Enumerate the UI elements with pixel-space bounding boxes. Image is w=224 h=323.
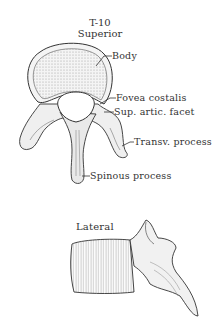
label-fovea-costalis: Fovea costalis [116, 93, 187, 103]
view-title-superior: T-10 Superior [70, 18, 130, 39]
label-spinous-process: Spinous process [90, 171, 172, 181]
label-sup-artic-facet: Sup. artic. facet [114, 107, 195, 117]
view-orientation: Superior [70, 29, 130, 40]
label-body: Body [112, 51, 137, 61]
view-title-lateral: Lateral [76, 222, 114, 232]
label-transv-process: Transv. process [134, 137, 212, 147]
vertebra-level: T-10 [70, 18, 130, 29]
vertebra-illustration [0, 0, 224, 323]
vertebra-lateral-view [71, 220, 198, 316]
